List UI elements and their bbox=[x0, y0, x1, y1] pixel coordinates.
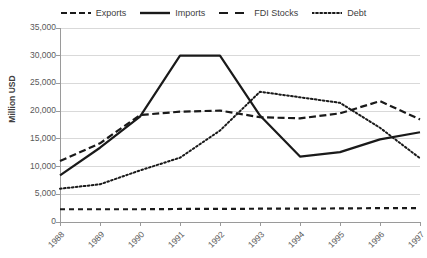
gridlines bbox=[60, 28, 420, 222]
plot-area bbox=[0, 0, 427, 258]
series-fdi-stocks bbox=[60, 208, 420, 209]
series-imports bbox=[60, 56, 420, 176]
line-chart: Exports Imports FDI Stocks bbox=[0, 0, 427, 258]
